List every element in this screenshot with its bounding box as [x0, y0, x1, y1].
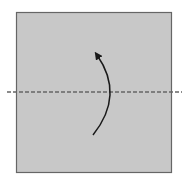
origami-diagram — [0, 0, 193, 183]
